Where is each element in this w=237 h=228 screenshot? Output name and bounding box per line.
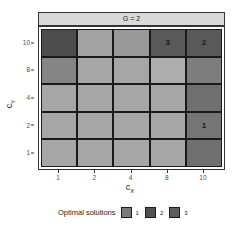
facet-strip: G = 2 [38,12,225,26]
heatmap-cell [150,84,186,112]
heatmap-cell [77,29,113,57]
heatmap-cell [41,57,77,85]
heatmap-cell [41,139,77,167]
heatmap-panel: 321 [38,26,225,170]
y-tick-label: 1 [26,149,34,156]
x-tick-label: 10 [199,174,206,181]
legend-label-1: 1 [136,210,139,216]
heatmap-cell [113,112,149,140]
y-tick-label: 2 [26,121,34,128]
heatmap-cell: 2 [186,29,222,57]
x-tick-mark [167,170,168,173]
heatmap-cell [150,112,186,140]
legend-title: Optimal solutions [58,208,116,217]
heatmap-cell [77,112,113,140]
legend-key-2 [145,207,156,218]
y-tick-label: 8 [26,66,34,73]
legend-label-3: 3 [184,210,187,216]
legend-key-1 [121,207,132,218]
heatmap-cell [77,139,113,167]
heatmap-cell [41,112,77,140]
legend-label-2: 2 [160,210,163,216]
x-tick-label: 8 [165,174,169,181]
y-tick-label: 4 [26,94,34,101]
x-tick-label: 2 [92,174,96,181]
x-tick-mark [94,170,95,173]
x-tick-mark [131,170,132,173]
x-tick-mark [58,170,59,173]
heatmap-cell [186,139,222,167]
heatmap-cell [150,139,186,167]
x-tick-mark [203,170,204,173]
heatmap-cell [113,57,149,85]
x-axis-label: cX [126,182,135,194]
heatmap-cell [77,57,113,85]
heatmap-cell [150,57,186,85]
heatmap-cell: 3 [150,29,186,57]
heatmap-cell [186,57,222,85]
heatmap-cell [186,84,222,112]
heatmap-grid: 321 [41,29,222,167]
y-tick-label: 10 [23,38,34,45]
heatmap-cell [41,84,77,112]
heatmap-cell [113,139,149,167]
heatmap-cell: 1 [186,112,222,140]
heatmap-cell [41,29,77,57]
heatmap-cell [77,84,113,112]
legend-key-3 [169,207,180,218]
heatmap-cell [113,29,149,57]
heatmap-cell [113,84,149,112]
x-tick-label: 1 [56,174,60,181]
x-tick-label: 4 [129,174,133,181]
y-axis-label: cY [4,100,16,109]
legend: Optimal solutions 1 2 3 [58,207,194,218]
